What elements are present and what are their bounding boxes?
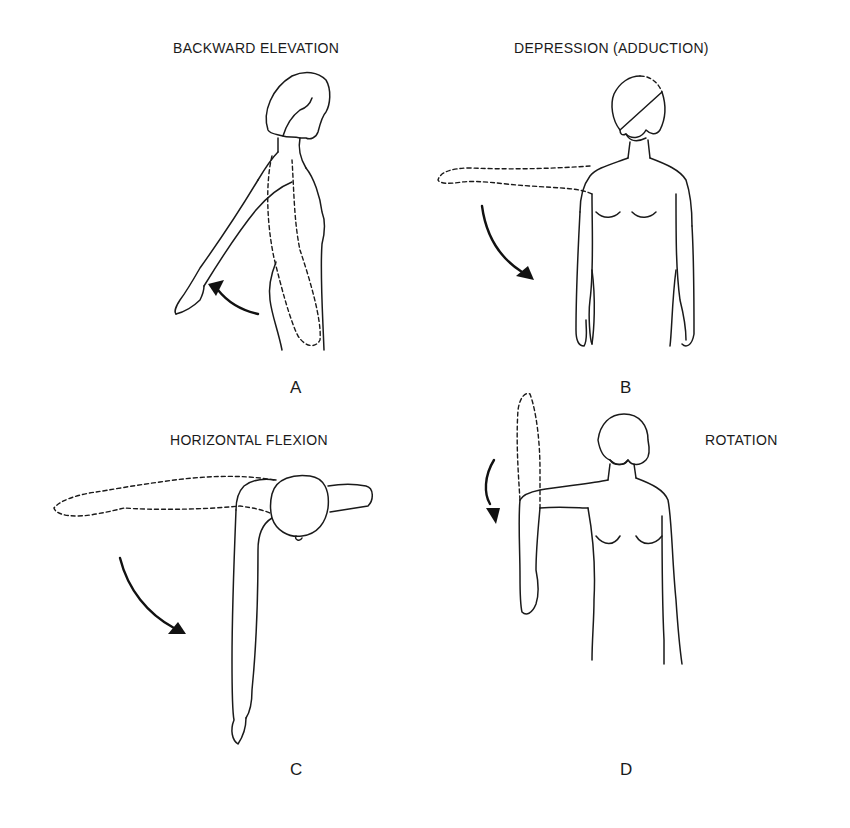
arrow-head-icon bbox=[486, 508, 500, 524]
arrow-head-icon bbox=[168, 622, 186, 634]
arrow-head-icon bbox=[516, 266, 534, 280]
figure-c-horizontal-flexion bbox=[54, 476, 372, 744]
figure-a-backward-elevation bbox=[175, 73, 330, 350]
diagram-canvas bbox=[0, 0, 850, 828]
figure-b-depression bbox=[438, 76, 694, 346]
figure-d-rotation bbox=[486, 394, 682, 664]
